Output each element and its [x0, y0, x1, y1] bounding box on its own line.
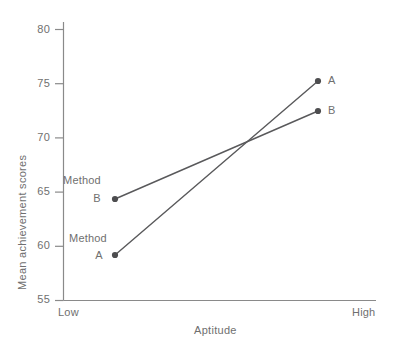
series-annotation-method-b-line1: Method: [58, 174, 106, 186]
end-label-method-b: B: [328, 104, 336, 116]
series-annotation-method-a-line1: Method: [64, 232, 112, 244]
x-axis-label-high: High: [352, 306, 375, 318]
y-tick-label-80: 80: [24, 23, 50, 35]
y-axis-ticks: [55, 30, 64, 301]
chart-canvas: [0, 0, 412, 345]
aptitude-achievement-line-chart: 80 75 70 65 60 55 Mean achievement score…: [0, 0, 412, 345]
y-tick-label-70: 70: [24, 131, 50, 143]
x-axis-label-low: Low: [58, 306, 79, 318]
x-axis-title: Aptitude: [194, 324, 237, 336]
y-tick-label-55: 55: [24, 293, 50, 305]
series-annotation-method-b-line2: B: [90, 192, 104, 204]
y-tick-label-75: 75: [24, 77, 50, 89]
data-point-method-a-high: [315, 78, 321, 84]
series-line-method-b: [115, 111, 318, 199]
data-point-method-b-high: [315, 108, 321, 114]
data-point-method-b-low: [112, 196, 118, 202]
data-point-method-a-low: [112, 252, 118, 258]
end-label-method-a: A: [328, 74, 336, 86]
y-axis-title: Mean achievement scores: [16, 155, 28, 290]
series-line-method-a: [115, 81, 318, 255]
series-annotation-method-a-line2: A: [92, 249, 106, 261]
